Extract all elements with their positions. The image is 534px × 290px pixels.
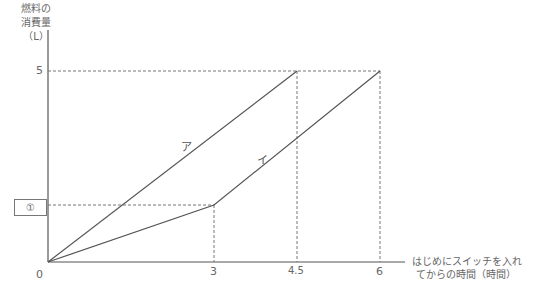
- x-tick-3: 3: [210, 265, 217, 278]
- guide-lines: [48, 71, 380, 262]
- y-axis-label-line2: 消費量: [10, 16, 62, 30]
- y-tick-5: 5: [36, 64, 43, 77]
- origin-label: 0: [36, 268, 43, 281]
- chart-plot: [0, 0, 534, 290]
- y-axis-label: 燃料の 消費量 （L）: [10, 2, 62, 44]
- series-i-line: [48, 71, 380, 262]
- y-axis-label-line1: 燃料の: [10, 2, 62, 16]
- series-a-label: ア: [181, 138, 192, 154]
- x-tick-6: 6: [376, 265, 383, 278]
- unknown-value-box: ①: [14, 199, 47, 216]
- series-i-label: イ: [257, 151, 268, 167]
- x-tick-4-5: 4.5: [288, 265, 304, 276]
- x-axis-label-line1: はじめにスイッチを入れ: [412, 255, 522, 268]
- x-axis-label: はじめにスイッチを入れ てからの時間（時間）: [412, 255, 522, 281]
- y-axis-label-line3: （L）: [10, 30, 62, 44]
- x-axis-label-line2: てからの時間（時間）: [412, 268, 522, 281]
